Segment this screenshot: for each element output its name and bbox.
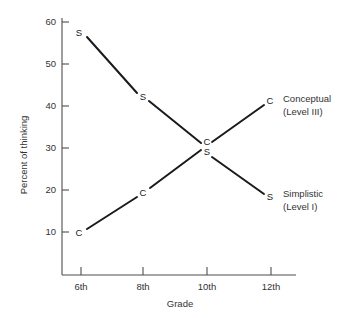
marker-simplistic-6th: S (76, 27, 82, 38)
marker-conceptual-8th: C (140, 187, 147, 198)
y-tick-label-60: 60 (45, 16, 56, 27)
chart-container: 60 50 40 30 20 10 6th 8th 10th 12th Perc… (0, 0, 346, 318)
y-tick-label-20: 20 (45, 184, 56, 195)
x-tick-label-6th: 6th (74, 281, 87, 292)
marker-simplistic-12th: S (267, 191, 273, 202)
series-conceptual-segment-2 (150, 150, 201, 188)
series-simplistic-segment-3 (212, 157, 264, 194)
y-axis-title: Percent of thinking (18, 116, 29, 195)
marker-simplistic-8th: S (140, 91, 146, 102)
series-simplistic-segment-1 (87, 37, 137, 93)
x-tick-label-10th: 10th (198, 281, 217, 292)
marker-conceptual-12th: C (267, 95, 274, 106)
marker-simplistic-10th: S (204, 146, 210, 157)
marker-conceptual-6th: C (76, 227, 83, 238)
series-label-conceptual-line1: Conceptual (283, 93, 331, 104)
series-label-simplistic-line1: Simplistic (283, 188, 323, 199)
x-axis-title: Grade (167, 298, 193, 309)
y-tick-label-40: 40 (45, 100, 56, 111)
x-tick-label-8th: 8th (136, 281, 149, 292)
x-tick-label-12th: 12th (262, 281, 281, 292)
series-label-simplistic-line2: (Level I) (283, 201, 317, 212)
series-simplistic-segment-2 (149, 101, 201, 143)
y-tick-label-10: 10 (45, 226, 56, 237)
marker-conceptual-10th: C (204, 136, 211, 147)
series-conceptual-segment-1 (87, 197, 137, 229)
y-tick-label-30: 30 (45, 142, 56, 153)
line-chart: 60 50 40 30 20 10 6th 8th 10th 12th Perc… (0, 0, 346, 318)
y-tick-label-50: 50 (45, 58, 56, 69)
series-label-conceptual-line2: (Level III) (283, 106, 323, 117)
series-conceptual-segment-3 (212, 105, 264, 142)
